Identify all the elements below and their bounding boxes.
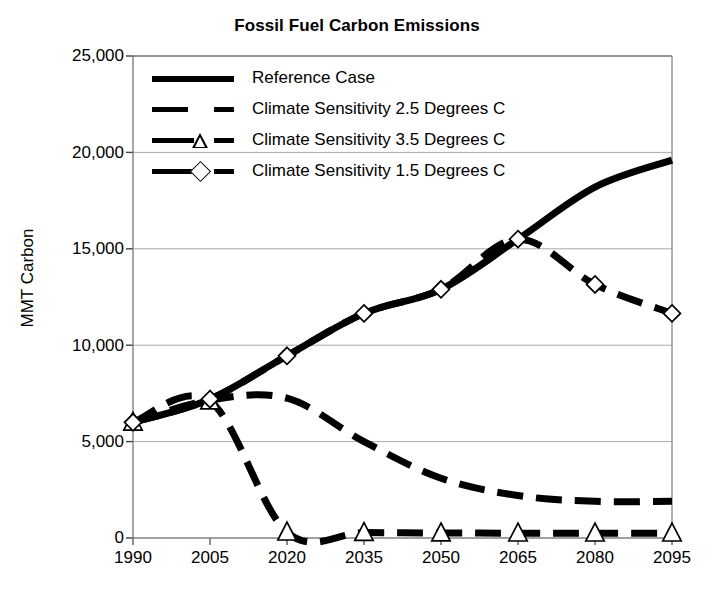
legend-item-climate-sensitivity-3-5[interactable]: Climate Sensitivity 3.5 Degrees C — [152, 124, 582, 155]
legend: Reference Case Climate Sensitivity 2.5 D… — [152, 62, 582, 186]
legend-label: Climate Sensitivity 1.5 Degrees C — [244, 161, 505, 181]
legend-key-dashed — [152, 99, 244, 119]
series-line-reference-case — [133, 160, 672, 422]
diamond-marker-icon — [664, 305, 681, 322]
triangle-marker-icon — [278, 522, 296, 540]
triangle-marker-icon — [192, 133, 208, 148]
series-line-climate-sensitivity-2-5-degrees-c — [133, 395, 672, 502]
chart-container: Fossil Fuel Carbon Emissions MMT Carbon … — [0, 0, 714, 597]
legend-key-dashed-triangle — [152, 130, 244, 150]
data-series-group — [124, 160, 681, 542]
series-line-climate-sensitivity-3-5-degrees-c — [133, 396, 672, 542]
legend-item-climate-sensitivity-1-5[interactable]: Climate Sensitivity 1.5 Degrees C — [152, 155, 582, 186]
legend-label: Reference Case — [244, 68, 375, 88]
triangle-marker-icon — [663, 523, 681, 541]
legend-label: Climate Sensitivity 3.5 Degrees C — [244, 130, 505, 150]
legend-key-solid — [152, 68, 244, 88]
diamond-marker-icon — [190, 160, 211, 181]
legend-item-climate-sensitivity-2-5[interactable]: Climate Sensitivity 2.5 Degrees C — [152, 93, 582, 124]
legend-key-dashed-diamond — [152, 161, 244, 181]
legend-item-reference-case[interactable]: Reference Case — [152, 62, 582, 93]
legend-label: Climate Sensitivity 2.5 Degrees C — [244, 99, 505, 119]
